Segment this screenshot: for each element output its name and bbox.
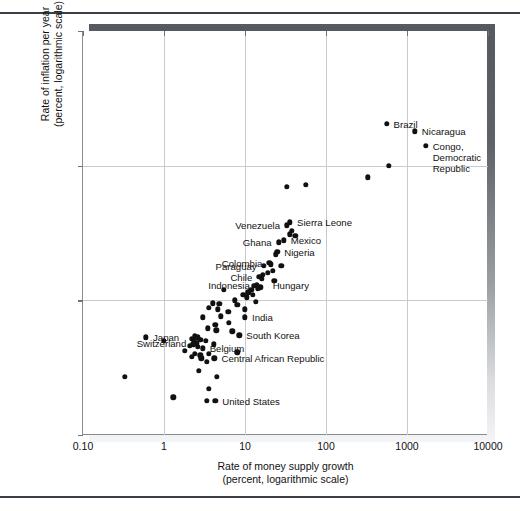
x-axis-tick (488, 31, 489, 36)
x-axis-tick-label: 1 (161, 441, 167, 452)
x-axis-tick (326, 31, 327, 36)
y-axis-tick (78, 435, 83, 436)
y-axis-title-line: Rate of inflation per year (39, 0, 52, 149)
x-axis-title-line: (percent, logarithmic scale) (83, 473, 488, 486)
data-point (171, 395, 176, 400)
point-label-sierra-leone: Sierra Leone (297, 217, 352, 228)
data-point (225, 309, 230, 314)
x-axis-tick (245, 31, 246, 36)
data-point (386, 163, 391, 168)
x-gridline (245, 31, 246, 435)
x-axis-tick-label: 100 (317, 441, 335, 452)
point-label-nicaragua: Nicaragua (422, 126, 466, 137)
data-point (242, 306, 247, 311)
data-point (214, 374, 219, 379)
x-gridline (326, 31, 327, 435)
data-point (218, 314, 223, 319)
data-point (204, 398, 209, 403)
data-point (384, 121, 389, 126)
data-point (196, 368, 201, 373)
data-point (365, 175, 370, 180)
x-gridline (407, 31, 408, 435)
data-point (268, 262, 273, 267)
point-label-hungary: Hungary (273, 279, 309, 290)
data-point (265, 270, 270, 275)
data-point (182, 348, 187, 353)
point-label-congo: Congo, Democratic Republic (433, 140, 482, 173)
data-point (284, 184, 289, 189)
point-label-switzerland: Switzerland (137, 338, 187, 349)
data-point (226, 320, 231, 325)
data-point (281, 237, 286, 242)
y-axis-tick (78, 300, 83, 301)
y-axis-tick (78, 166, 83, 167)
data-point (206, 386, 211, 391)
x-axis-title: Rate of money supply growth(percent, log… (83, 460, 488, 485)
data-point (230, 328, 235, 333)
data-point (199, 356, 204, 361)
data-point (206, 305, 211, 310)
point-label-central-african-republic: Central African Republic (221, 353, 324, 364)
data-point (122, 374, 127, 379)
x-axis-tick (407, 31, 408, 36)
data-point (260, 272, 265, 277)
y-axis-title: Rate of inflation per year(percent, loga… (39, 0, 64, 149)
data-point (234, 302, 239, 307)
data-point (213, 328, 218, 333)
data-point (253, 299, 258, 304)
point-label-paraguay: Paraguay (216, 260, 257, 271)
data-point (187, 343, 192, 348)
x-axis-tick (164, 31, 165, 36)
data-point (255, 286, 260, 291)
x-axis-tick (83, 31, 84, 36)
point-label-brazil: Brazil (394, 118, 418, 129)
data-point (237, 333, 242, 338)
data-point (273, 252, 278, 257)
data-point (303, 182, 308, 187)
point-label-india: India (252, 312, 273, 323)
point-label-nigeria: Nigeria (284, 246, 314, 257)
bottom-rule (0, 496, 520, 498)
figure-root: 1101001000 0.10110100100010000 BrazilNic… (0, 0, 520, 511)
data-point (270, 268, 275, 273)
point-label-ghana: Ghana (243, 237, 272, 248)
data-point (412, 129, 417, 134)
data-point (284, 223, 289, 228)
point-label-mexico: Mexico (291, 235, 321, 246)
x-axis-tick-label: 0.10 (73, 441, 93, 452)
y-axis-title-line: (percent, logarithmic scale) (52, 0, 65, 149)
y-gridline (83, 166, 488, 167)
y-gridline (83, 300, 488, 301)
point-label-south-korea: South Korea (246, 330, 299, 341)
point-label-united-states: United States (222, 395, 280, 406)
x-gridline (164, 31, 165, 435)
data-point (205, 326, 210, 331)
x-axis-tick-label: 10000 (473, 441, 502, 452)
data-point (215, 306, 220, 311)
data-point (276, 240, 281, 245)
data-point (189, 354, 194, 359)
data-point (203, 338, 208, 343)
data-point (250, 292, 255, 297)
top-rule (0, 12, 520, 14)
point-label-venezuela: Venezuela (235, 220, 280, 231)
x-axis-tick-label: 10 (239, 441, 251, 452)
scatter-plot-area: 1101001000 0.10110100100010000 BrazilNic… (82, 31, 487, 435)
x-axis-title-line: Rate of money supply growth (83, 460, 488, 473)
data-point (213, 398, 218, 403)
data-point (213, 322, 218, 327)
point-label-indonesia: Indonesia (208, 279, 250, 290)
data-point (200, 314, 205, 319)
data-point (212, 356, 217, 361)
data-point (279, 263, 284, 268)
data-point (200, 346, 205, 351)
data-point (242, 314, 247, 319)
data-point (423, 143, 428, 148)
x-axis-tick-label: 1000 (395, 441, 418, 452)
data-point (204, 359, 209, 364)
